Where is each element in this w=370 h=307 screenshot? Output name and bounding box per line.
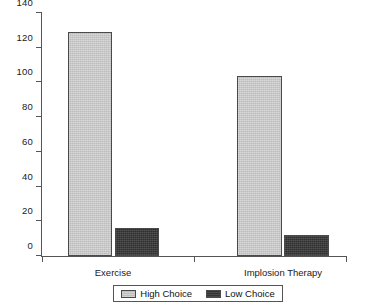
y-axis-tick	[36, 151, 42, 152]
y-axis-tick-label: 20	[22, 205, 33, 216]
legend-label-low-choice: Low Choice	[225, 288, 275, 299]
y-axis-tick	[36, 81, 42, 82]
legend-entry-low-choice: Low Choice	[206, 288, 275, 299]
y-axis-tick-label: 120	[17, 31, 33, 42]
y-axis-tick	[36, 47, 42, 48]
legend-swatch-high-choice	[121, 290, 136, 298]
legend-entry-high-choice: High Choice	[121, 288, 192, 299]
y-axis-tick	[36, 12, 42, 13]
bar-implosion-therapy-low-choice	[284, 235, 329, 256]
x-axis-tick	[194, 256, 195, 262]
x-axis-tick	[42, 256, 43, 262]
y-axis-tick-label: 80	[22, 101, 33, 112]
legend-label-high-choice: High Choice	[140, 288, 192, 299]
y-axis-tick	[36, 220, 42, 221]
bar-chart: 0 20 40 60 80 100 120 140	[0, 0, 370, 307]
bar-exercise-high-choice	[68, 32, 112, 256]
y-axis-tick-label: 40	[22, 170, 33, 181]
legend-swatch-low-choice	[206, 290, 221, 298]
bar-exercise-low-choice	[115, 228, 159, 256]
y-axis-tick	[36, 186, 42, 187]
y-axis-tick	[36, 116, 42, 117]
y-axis-tick-label: 0	[28, 240, 33, 251]
y-axis-tick-label: 60	[22, 135, 33, 146]
x-axis-category-label-implosion-therapy: Implosion Therapy	[244, 267, 322, 278]
bar-implosion-therapy-high-choice	[237, 76, 282, 257]
x-axis-category-label-exercise: Exercise	[95, 267, 131, 278]
y-axis-tick-label: 100	[17, 66, 33, 77]
plot-area: 0 20 40 60 80 100 120 140	[41, 13, 347, 257]
chart-legend: High Choice Low Choice	[113, 285, 283, 302]
x-axis-tick	[346, 256, 347, 262]
y-axis-tick-label: 140	[17, 0, 33, 8]
